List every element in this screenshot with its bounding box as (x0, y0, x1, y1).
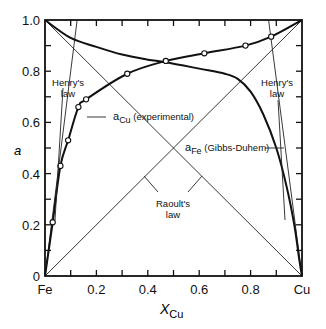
data-point-marker (243, 43, 248, 48)
y-tick-label: 0.4 (22, 167, 40, 182)
x-axis-label: XCu (159, 301, 183, 320)
data-point-marker (125, 71, 130, 76)
henry-law-left-line1: Henry's (52, 77, 84, 88)
raoult-law-line1: Raoult's (156, 198, 190, 209)
y-tick-label: 0 (33, 269, 40, 284)
henry-law-right-line1: Henry's (261, 77, 293, 88)
data-point-marker (84, 97, 89, 102)
raoult-law-line2: law (166, 209, 180, 220)
y-axis-label: a (14, 143, 21, 158)
x-tick-label: Cu (294, 282, 311, 297)
x-tick-label: 0.8 (242, 282, 260, 297)
y-tick-label: 0.8 (22, 64, 40, 79)
data-point-marker (50, 220, 55, 225)
data-point-marker (163, 58, 168, 63)
a-fe-label: aFe (Gibbs-Duhem) (185, 141, 269, 156)
x-tick-label: Fe (37, 282, 52, 297)
henry-law-left-line2: law (61, 88, 75, 99)
y-tick-label: 0.2 (22, 218, 40, 233)
y-tick-label: 1.0 (22, 13, 40, 28)
x-tick-label: 0.6 (190, 282, 208, 297)
y-tick-label: 0.6 (22, 115, 40, 130)
henry-law-right-line2: law (270, 88, 284, 99)
data-point-marker (269, 34, 274, 39)
data-point-marker (66, 138, 71, 143)
a-cu-label: aCu (experimental) (113, 110, 194, 125)
data-point-marker (76, 104, 81, 109)
x-tick-label: 0.2 (87, 282, 105, 297)
chart: Fe0.20.40.60.8Cu00.20.40.60.81.0 Henry's… (0, 0, 326, 329)
data-point-marker (202, 51, 207, 56)
x-tick-label: 0.4 (139, 282, 157, 297)
